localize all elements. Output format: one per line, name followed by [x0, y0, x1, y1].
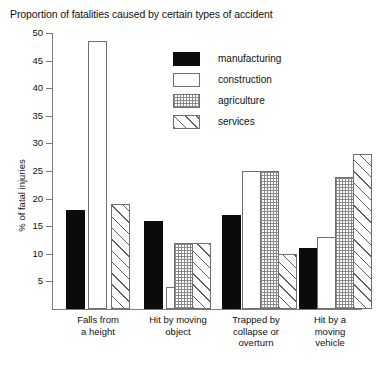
y-tick-10: 10 — [46, 254, 52, 255]
legend-label-manufacturing: manufacturing — [218, 53, 281, 64]
legend-swatch-construction-icon — [173, 73, 200, 87]
bar-construction-trapped-by-collapse-or-overturn — [242, 171, 261, 309]
bar-group-hit-by-a-moving-vehicle — [299, 33, 363, 309]
y-tick-35: 35 — [46, 116, 52, 117]
y-axis-label: % of fatal injuries — [16, 131, 27, 261]
x-axis-label-hit-by-a-moving-vehicle: Hit by a moving vehicle — [294, 314, 366, 349]
legend-swatch-services-icon — [173, 115, 200, 129]
bar-construction-hit-by-a-moving-vehicle — [317, 237, 336, 309]
x-axis-label-trapped-by-collapse-or-overturn: Trapped by collapse or overturn — [214, 314, 298, 349]
y-tick-label-50: 50 — [32, 27, 43, 38]
cat-line-1: Falls from — [56, 314, 140, 326]
legend-swatch-agriculture-icon — [173, 94, 200, 108]
legend-label-agriculture: agriculture — [218, 95, 265, 106]
bar-agriculture-hit-by-moving-object — [174, 243, 193, 309]
x-axis-label-falls-from-a-height: Falls from a height — [56, 314, 140, 337]
y-tick-20: 20 — [46, 199, 52, 200]
y-tick-label-25: 25 — [32, 165, 43, 176]
chart-legend: manufacturing construction agriculture s… — [173, 48, 281, 132]
legend-label-construction: construction — [218, 74, 272, 85]
bar-agriculture-hit-by-a-moving-vehicle — [335, 177, 354, 310]
y-tick-25: 25 — [46, 171, 52, 172]
y-tick-label-20: 20 — [32, 193, 43, 204]
legend-label-services: services — [218, 116, 255, 127]
bar-manufacturing-trapped-by-collapse-or-overturn — [222, 215, 241, 309]
bar-chart: Proportion of fatalities caused by certa… — [0, 0, 378, 380]
bar-manufacturing-hit-by-a-moving-vehicle — [299, 248, 318, 309]
bar-services-trapped-by-collapse-or-overturn — [278, 254, 297, 309]
x-axis-line — [52, 309, 362, 310]
y-tick-40: 40 — [46, 88, 52, 89]
y-axis-line — [52, 33, 53, 310]
bar-group-falls-from-a-height — [66, 33, 130, 309]
y-tick-label-45: 45 — [32, 55, 43, 66]
legend-swatch-manufacturing-icon — [173, 52, 200, 66]
bar-agriculture-trapped-by-collapse-or-overturn — [260, 171, 279, 309]
x-axis-label-hit-by-moving-object: Hit by moving object — [132, 314, 224, 337]
bar-manufacturing-hit-by-moving-object — [144, 221, 163, 309]
cat-line-2: a height — [56, 326, 140, 338]
bar-services-hit-by-moving-object — [192, 243, 211, 309]
y-tick-label-10: 10 — [32, 248, 43, 259]
legend-item-agriculture: agriculture — [173, 90, 281, 111]
chart-title: Proportion of fatalities caused by certa… — [10, 8, 272, 20]
y-tick-label-5: 5 — [38, 275, 43, 286]
cat-line-1: Hit by moving — [132, 314, 224, 326]
cat-line-1: Hit by a — [294, 314, 366, 326]
bar-services-falls-from-a-height — [111, 204, 130, 309]
y-tick-5: 5 — [46, 281, 52, 282]
cat-line-2: moving — [294, 326, 366, 338]
y-tick-45: 45 — [46, 61, 52, 62]
bar-construction-falls-from-a-height — [88, 41, 107, 309]
y-tick-30: 30 — [46, 143, 52, 144]
cat-line-2: object — [132, 326, 224, 338]
y-tick-label-40: 40 — [32, 82, 43, 93]
cat-line-1: Trapped by — [214, 314, 298, 326]
y-tick-label-15: 15 — [32, 220, 43, 231]
cat-line-3: vehicle — [294, 337, 366, 349]
y-tick-label-30: 30 — [32, 137, 43, 148]
legend-item-services: services — [173, 111, 281, 132]
legend-item-construction: construction — [173, 69, 281, 90]
bar-services-hit-by-a-moving-vehicle — [353, 154, 372, 309]
cat-line-2: collapse or — [214, 326, 298, 338]
legend-item-manufacturing: manufacturing — [173, 48, 281, 69]
y-tick-label-35: 35 — [32, 110, 43, 121]
y-tick-50: 50 — [46, 33, 52, 34]
y-tick-15: 15 — [46, 226, 52, 227]
cat-line-3: overturn — [214, 337, 298, 349]
bar-manufacturing-falls-from-a-height — [66, 210, 85, 309]
